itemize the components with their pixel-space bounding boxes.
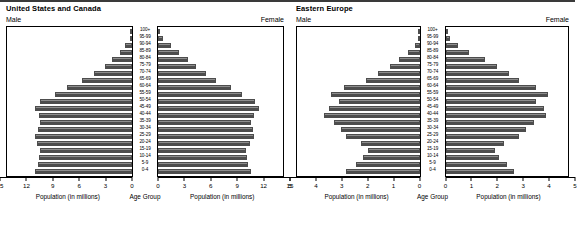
pyramid-bar-row (7, 28, 132, 35)
female-bar (446, 130, 527, 133)
pyramid-bar-row (297, 119, 420, 126)
axis-tick (523, 177, 524, 181)
pyramid-bar-row (297, 70, 420, 77)
female-bar (158, 137, 254, 140)
pyramid-bar-row (446, 140, 569, 147)
pyramid-bar-row (7, 154, 132, 161)
age-group-label: 45-49 (132, 104, 158, 111)
female-axis-caption: Population (in millions) (448, 191, 569, 203)
axis-tick (263, 177, 264, 181)
pyramid-bar-row (158, 161, 283, 168)
axis-tick-label: 4 (547, 182, 550, 189)
age-group-label: 50-54 (132, 97, 158, 104)
pyramid-bar-row (7, 56, 132, 63)
age-group-label: 20-24 (132, 139, 158, 146)
female-bar (158, 102, 255, 105)
female-bar (158, 116, 254, 119)
male-bar (368, 151, 419, 154)
axis-tick (367, 177, 368, 181)
male-bar (408, 53, 419, 56)
female-bar (158, 165, 248, 168)
pyramid-bar-row (297, 147, 420, 154)
tick-labels-male: 15129630 (0, 181, 132, 190)
axis-tick-label: 15 (0, 182, 3, 189)
pyramid-bar-row (446, 42, 569, 49)
pyramid-bar-row (158, 56, 283, 63)
pyramid-bar-row (446, 77, 569, 84)
axis-tick (341, 177, 342, 181)
female-bar (446, 137, 520, 140)
male-bar (329, 109, 420, 112)
age-group-label: 70-74 (420, 69, 446, 76)
pyramid-bar-row (297, 161, 420, 168)
axis-tick-label: 2 (366, 182, 369, 189)
female-bar (446, 46, 458, 49)
age-group-label: 80-84 (132, 55, 158, 62)
pyramid-bar-row (446, 35, 569, 42)
pyramid-bar-row (7, 91, 132, 98)
pyramid-bar-row (446, 56, 569, 63)
axis-tick-label: 0 (418, 182, 421, 189)
age-group-label: 90-94 (132, 41, 158, 48)
age-group-label: 45-49 (420, 104, 446, 111)
pyramid-bar-row (158, 42, 283, 49)
population-pyramid: 100+95-9990-9485-8980-8475-7970-7465-696… (6, 26, 284, 177)
female-bar (158, 81, 216, 84)
pyramid-bar-row (158, 70, 283, 77)
male-bars-area (6, 26, 132, 177)
age-group-axis: 100+95-9990-9485-8980-8475-7970-7465-696… (132, 26, 158, 177)
axis-tick (237, 177, 238, 181)
pyramid-bar-row (297, 84, 420, 91)
age-group-label: 65-69 (132, 76, 158, 83)
axis-tick (105, 177, 106, 181)
pyramid-bar-row (7, 77, 132, 84)
axis-tick (471, 177, 472, 181)
female-bar (446, 151, 495, 154)
pyramid-bar-row (7, 63, 132, 70)
male-bar (35, 172, 132, 175)
age-group-label: 25-29 (420, 132, 446, 139)
age-group-caption: Age Group (417, 191, 448, 203)
female-bar (446, 172, 515, 175)
male-axis-caption: Population (in millions) (6, 191, 130, 203)
age-group-label: 30-34 (132, 125, 158, 132)
axis-tick-label: 5 (573, 182, 576, 189)
axis-tick-label: 5 (288, 182, 291, 189)
pyramid-bar-row (446, 49, 569, 56)
male-bar (341, 130, 419, 133)
pyramid-bar-row (7, 105, 132, 112)
pyramid-bar-row (158, 112, 283, 119)
pyramid-bar-row (158, 35, 283, 42)
male-bar (112, 60, 132, 63)
age-group-label: 35-39 (420, 118, 446, 125)
age-group-label: 10-14 (132, 153, 158, 160)
age-group-label: 75-79 (132, 62, 158, 69)
pyramid-bar-row (446, 133, 569, 140)
female-bar (446, 88, 537, 91)
female-legend-label: Female (261, 16, 284, 23)
male-bar (339, 102, 420, 105)
pyramid-bar-row (158, 63, 283, 70)
male-bar (105, 67, 133, 70)
pyramid-bar-row (446, 84, 569, 91)
pyramid-bar-row (158, 140, 283, 147)
pyramid-bar-row (297, 49, 420, 56)
female-bar (446, 39, 451, 42)
pyramid-bar-row (297, 28, 420, 35)
male-bar (378, 74, 420, 77)
age-group-label: 55-59 (420, 90, 446, 97)
age-group-label: 50-54 (420, 97, 446, 104)
female-bar (446, 158, 500, 161)
pyramid-bar-row (297, 168, 420, 175)
age-group-label: 10-14 (420, 153, 446, 160)
pyramid-bar-row (446, 70, 569, 77)
axis-tick-label: 3 (104, 182, 107, 189)
pyramid-bar-row (7, 35, 132, 42)
male-bar (399, 60, 420, 63)
panel-eastern-europe: Eastern Europe Male Female 100+95-9990-9… (290, 4, 575, 203)
male-bar (125, 46, 132, 49)
age-group-label: 30-34 (420, 125, 446, 132)
female-bar (158, 172, 251, 175)
age-group-label: 65-69 (420, 76, 446, 83)
female-bars-area (158, 26, 284, 177)
